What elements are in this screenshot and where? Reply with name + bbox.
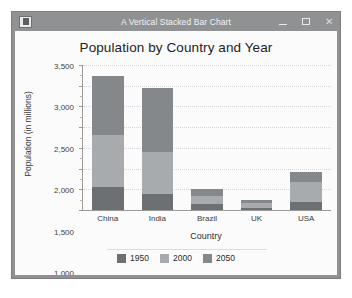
x-tick-label: China xyxy=(83,214,133,223)
application-window: A Vertical Stacked Bar Chart ✕ Populatio… xyxy=(11,11,341,279)
x-tick-label: USA xyxy=(281,214,331,223)
bar-slot: Brazil xyxy=(182,65,232,210)
y-tick-label: 2,500 xyxy=(54,144,74,153)
bar-segment-2000[interactable] xyxy=(92,135,124,187)
close-icon: ✕ xyxy=(325,17,333,27)
y-tick-label: 2,000 xyxy=(54,186,74,195)
legend-swatch xyxy=(203,254,212,263)
legend-label: 2050 xyxy=(216,253,235,263)
bar-slot: USA xyxy=(281,65,331,210)
minimize-icon xyxy=(279,24,287,25)
bar-segment-2000[interactable] xyxy=(290,182,322,202)
bar-segment-1950[interactable] xyxy=(290,202,322,210)
x-tick-label: UK xyxy=(232,214,282,223)
bar-slot: UK xyxy=(232,65,282,210)
bar-segment-2000[interactable] xyxy=(142,152,174,195)
legend-label: 2000 xyxy=(173,253,192,263)
plot-wrapper: Population (in millions) 05001,0001,5002… xyxy=(15,59,337,275)
x-axis-label: Country xyxy=(82,231,330,241)
y-axis-label: Population (in millions) xyxy=(21,59,35,209)
legend-label: 1950 xyxy=(130,253,149,263)
maximize-icon xyxy=(302,18,310,25)
bar-slot: India xyxy=(133,65,183,210)
legend-item-1950[interactable]: 1950 xyxy=(117,253,149,263)
y-tick-label: 3,000 xyxy=(54,103,74,112)
minimize-button[interactable] xyxy=(276,15,290,28)
application-icon-glyph xyxy=(23,18,29,25)
legend-swatch xyxy=(117,254,126,263)
y-tick-label: 1,000 xyxy=(54,269,74,275)
x-tick-label: Brazil xyxy=(182,214,232,223)
y-tick-label: 1,500 xyxy=(54,227,74,236)
window-titlebar[interactable]: A Vertical Stacked Bar Chart ✕ xyxy=(12,12,340,31)
y-tick-mark: 0 xyxy=(79,210,83,211)
stacked-bar[interactable] xyxy=(191,189,223,210)
x-tick-label: India xyxy=(133,214,183,223)
application-icon xyxy=(19,16,32,28)
bar-group: ChinaIndiaBrazilUKUSA xyxy=(83,65,331,210)
bar-segment-1950[interactable] xyxy=(92,187,124,210)
bar-slot: China xyxy=(83,65,133,210)
maximize-button[interactable] xyxy=(299,15,313,28)
bar-segment-1950[interactable] xyxy=(142,194,174,210)
plot-area: 05001,0001,5002,0002,5003,0003,500 China… xyxy=(82,65,331,211)
bar-segment-2000[interactable] xyxy=(191,196,223,203)
stacked-bar[interactable] xyxy=(290,172,322,211)
legend-swatch xyxy=(160,254,169,263)
legend-separator xyxy=(107,249,267,250)
bar-segment-2050[interactable] xyxy=(290,172,322,182)
legend-item-2000[interactable]: 2000 xyxy=(160,253,192,263)
close-button[interactable]: ✕ xyxy=(322,15,336,28)
bar-segment-2050[interactable] xyxy=(92,76,124,134)
stacked-bar[interactable] xyxy=(241,200,273,210)
stacked-bar[interactable] xyxy=(142,88,174,210)
window-controls: ✕ xyxy=(276,12,336,31)
bar-segment-1950[interactable] xyxy=(241,208,273,210)
chart-title: Population by Country and Year xyxy=(15,40,337,55)
y-tick-label: 3,500 xyxy=(54,62,74,71)
stacked-bar[interactable] xyxy=(92,76,124,210)
bar-segment-2050[interactable] xyxy=(142,88,174,152)
chart-legend: 195020002050 xyxy=(15,253,337,263)
chart-client-area: Population by Country and Year Populatio… xyxy=(15,31,337,275)
legend-item-2050[interactable]: 2050 xyxy=(203,253,235,263)
bar-segment-1950[interactable] xyxy=(191,204,223,210)
bar-segment-2050[interactable] xyxy=(191,189,223,196)
